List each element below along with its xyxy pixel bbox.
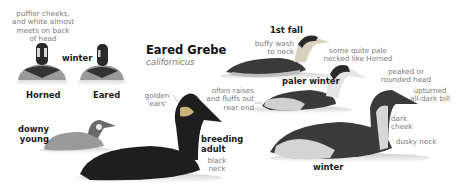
fluffs-rear-note: often raises and fluffs out rear end (196, 87, 254, 112)
eared-grebe-downy-young-icon (39, 120, 116, 154)
buffy-wash-note: buffy wash to neck (252, 40, 294, 57)
note-line: 'ears' (142, 100, 172, 108)
label-line: adult (201, 145, 243, 155)
label-line: young (18, 135, 49, 145)
winter-label: winter (313, 163, 343, 173)
eared-label: Eared (93, 91, 120, 101)
note-line: all-dark bill (404, 95, 456, 103)
note-line: rounded head (378, 76, 434, 84)
dusky-neck-note: dusky neck (396, 138, 436, 146)
note-line: of head (12, 35, 74, 43)
downy-young-label: downy young (18, 125, 49, 144)
note-line: neck (204, 165, 230, 173)
comparison-note: puffier cheeks, and white almost meets o… (12, 10, 74, 44)
field-guide-plate: puffier cheeks, and white almost meets o… (0, 0, 458, 191)
black-neck-note: black neck (204, 157, 230, 174)
paler-winter-label: paler winter (282, 77, 340, 87)
dark-cheek-note: dark cheek (391, 115, 413, 132)
note-line: rear end (196, 104, 254, 112)
comparison-season-label: winter (62, 54, 92, 64)
first-fall-label: 1st fall (270, 26, 303, 36)
eared-grebe-winter-rear-icon (78, 44, 126, 86)
scientific-name: californicus (146, 57, 195, 67)
horned-label: Horned (26, 91, 61, 101)
note-line: necked like Horned (318, 55, 398, 63)
breeding-adult-label: breeding adult (201, 135, 243, 154)
note-line: cheek (391, 123, 413, 131)
horned-grebe-winter-rear-icon (16, 43, 68, 86)
golden-ears-note: golden 'ears' (142, 92, 172, 109)
pale-necked-note: some quite pale necked like Horned (318, 47, 398, 64)
peaked-head-note: peaked or rounded head (378, 68, 434, 85)
upturned-bill-note: upturned all-dark bill (404, 87, 456, 104)
note-line: to neck (252, 48, 294, 56)
species-title: Eared Grebe (146, 43, 226, 57)
